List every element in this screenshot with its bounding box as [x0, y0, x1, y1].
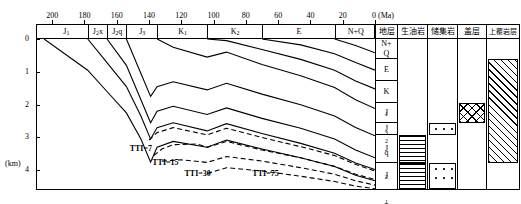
x-axis-unit-label: 0 (Ma): [372, 12, 394, 20]
strat-row: E: [376, 59, 397, 81]
source-rock-patch: [399, 135, 426, 163]
source-rock-patch: [399, 163, 426, 189]
burial-curve: [335, 39, 375, 53]
x-tick-label: 60: [274, 12, 282, 20]
x-tick-label: 160: [111, 12, 123, 20]
strat-bar-cell: J1: [45, 25, 89, 38]
overburden-patch: [488, 59, 518, 163]
top-stratigraphic-bar: J1J2xJ2qJ3K1K2EN+Q: [36, 24, 375, 39]
y-tick-label: 4: [25, 166, 29, 174]
lithology-columns-panel: 地层生油岩储集岩盖层上覆岩层 N+QEK1J3J2qJ2xJ1: [375, 24, 520, 190]
y-tick-label: 1: [25, 68, 29, 76]
strat-bar-cell: N+Q: [336, 25, 376, 38]
column-body-strat: N+QEK1J3J2qJ2xJ1: [376, 39, 398, 189]
strat-row: N+Q: [376, 39, 397, 59]
tti-label: TTI=7: [130, 144, 152, 153]
x-tick-label: 120: [175, 12, 187, 20]
x-tick-label: 100: [208, 12, 220, 20]
tti-label: TTI=30: [185, 169, 211, 178]
strat-row: K1: [376, 81, 397, 103]
y-axis-unit-label: (km): [5, 160, 21, 168]
strat-bar-cell: J2q: [108, 25, 127, 38]
tti-isoline: [207, 168, 375, 189]
column-header-cap: 盖层: [458, 25, 487, 39]
x-tick-label: 140: [143, 12, 155, 20]
strat-row: J2x: [376, 135, 397, 163]
cap-rock-patch: [459, 103, 485, 123]
plot-area: TTI=7TTI=15TTI=30TTI=75: [36, 39, 375, 190]
burial-curves-svg: [36, 39, 375, 190]
strat-bar-cell: E: [263, 25, 336, 38]
strat-row: J2q: [376, 123, 397, 135]
strat-bar-cell: K1: [158, 25, 208, 38]
tti-label: TTI=15: [152, 158, 178, 167]
strat-row: J3: [376, 103, 397, 123]
column-body-cap: [458, 39, 487, 189]
column-header-strat: 地层: [376, 25, 398, 39]
x-tick-label: 40: [306, 12, 314, 20]
tti-label: TTI=75: [252, 169, 278, 178]
column-body-reservoir: [428, 39, 458, 189]
x-tick-label: 200: [46, 12, 58, 20]
burial-history-diagram: 20018016014012010080604020 0 (Ma) J1J2xJ…: [0, 0, 521, 204]
strat-bar-cell: K2: [208, 25, 263, 38]
column-body-overburden: [487, 39, 519, 189]
reservoir-rock-patch: [429, 163, 456, 189]
burial-curve: [207, 39, 375, 89]
y-tick-label: 2: [25, 101, 29, 109]
burial-curve: [44, 39, 375, 181]
reservoir-rock-patch: [429, 123, 456, 135]
column-header-source: 生油岩: [398, 25, 428, 39]
x-tick-label: 20: [339, 12, 347, 20]
x-tick-label: 80: [242, 12, 250, 20]
y-tick-label: 0: [25, 35, 29, 43]
burial-curve: [126, 39, 375, 136]
x-tick-label: 180: [78, 12, 90, 20]
column-header-overburden: 上覆岩层: [487, 25, 519, 39]
column-header-reservoir: 储集岩: [428, 25, 458, 39]
y-tick-label: 3: [25, 133, 29, 141]
strat-row: J1: [376, 163, 397, 189]
strat-bar-cell: J2x: [89, 25, 108, 38]
strat-bar-cell: J3: [127, 25, 158, 38]
column-body-source: [398, 39, 428, 189]
